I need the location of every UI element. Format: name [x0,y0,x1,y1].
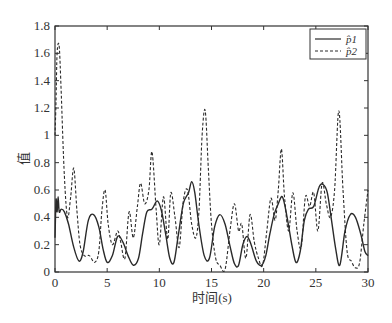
x-tick-label: 15 [205,275,218,290]
x-tick-label: 10 [153,275,166,290]
x-tick-label: 25 [309,275,322,290]
series-lines [55,43,368,271]
plot-area-border [55,26,368,272]
y-tick-label: 0 [44,264,51,279]
y-axis-label: 值 [16,152,31,165]
y-tick-label: 0.4 [34,209,51,224]
legend-label: p̂2 [345,45,358,57]
x-tick-label: 5 [104,275,111,290]
y-tick-label: 0.6 [34,182,51,197]
y-tick-label: 1 [44,127,51,142]
legend-label: p̂1 [345,33,357,45]
x-tick-label: 0 [52,275,59,290]
x-tick-label: 20 [257,275,270,290]
y-tick-label: 1.2 [34,100,50,115]
y-tick-label: 0.8 [34,155,50,170]
y-tick-label: 1.4 [34,73,51,88]
line-chart: 05101520253000.20.40.60.811.21.41.61.8 p… [0,0,392,323]
y-tick-label: 1.8 [34,18,50,33]
y-tick-label: 1.6 [34,45,51,60]
series-p2-line [55,43,368,271]
x-tick-label: 30 [362,275,375,290]
legend-box [310,29,366,59]
y-tick-label: 0.2 [34,237,50,252]
legend: p̂1p̂2 [310,29,366,59]
plot-frame [55,26,368,272]
x-axis-label: 时间(s) [192,290,232,305]
